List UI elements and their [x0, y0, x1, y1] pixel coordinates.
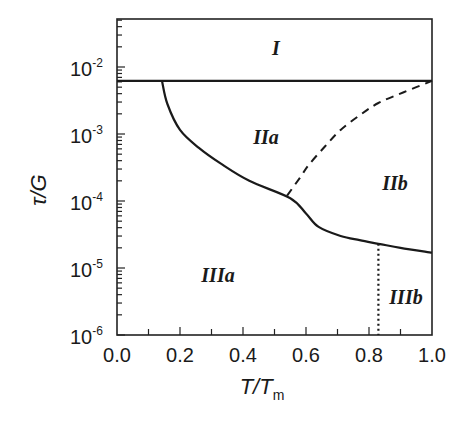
y-axis-title: τ/G	[26, 174, 51, 205]
x-axis-title: T/Tm	[240, 374, 285, 403]
region-label-IIb: IIb	[381, 172, 408, 194]
y-tick-labels: 10-2 10-3 10-4 10-5 10-6	[70, 56, 103, 348]
x-tick-label: 0.2	[166, 344, 194, 366]
region-label-IIIb: IIIb	[388, 286, 422, 308]
deformation-map-chart: 10-2 10-3 10-4 10-5 10-6 0.0 0.2 0.4 0.6…	[0, 0, 471, 429]
x-tick-label: 0.4	[229, 344, 257, 366]
y-tick-label: 10-4	[70, 190, 103, 214]
series-line-2	[287, 81, 432, 196]
y-tick-label: 10-3	[70, 123, 103, 147]
x-tick-label: 0.0	[103, 344, 131, 366]
x-tick-labels: 0.0 0.2 0.4 0.6 0.8 1.0	[103, 344, 446, 366]
y-tick-label: 10-2	[70, 56, 103, 80]
series-layer	[117, 81, 432, 335]
x-tick-label: 0.6	[292, 344, 320, 366]
y-tick-label: 10-6	[70, 324, 103, 348]
region-label-IIa: IIa	[252, 126, 279, 148]
region-label-IIIa: IIIa	[200, 264, 234, 286]
x-tick-label: 0.8	[355, 344, 383, 366]
x-axis-ticks	[149, 327, 401, 335]
region-label-I: I	[271, 37, 281, 59]
y-axis-ticks	[117, 20, 125, 335]
y-tick-label: 10-5	[70, 257, 103, 281]
series-line-1	[162, 81, 432, 253]
x-tick-label: 1.0	[418, 344, 446, 366]
